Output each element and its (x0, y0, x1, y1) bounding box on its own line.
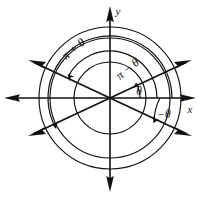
ray-theta-upper-right-arrowhead (174, 60, 192, 69)
label-theta: θ (136, 85, 142, 97)
x-axis-group (4, 94, 196, 102)
ray-theta-lower-left-arrowhead (28, 127, 46, 136)
figure-container: x y π + θ π − θ θ −θ (0, 0, 208, 198)
y-axis-bottom-arrowhead (106, 176, 114, 192)
ray-pi-minus-theta-upper-left-arrowhead (28, 60, 46, 69)
arc-pi-minus-theta (69, 51, 158, 98)
angle-diagram-svg: x y π + θ π − θ θ −θ (0, 0, 208, 198)
x-axis-label: x (187, 103, 193, 115)
y-axis-label: y (115, 5, 121, 17)
x-axis-right-arrowhead (180, 94, 196, 102)
label-negative-theta: −θ (157, 108, 171, 120)
ray-pi-minus-theta-lower-right-arrowhead (174, 127, 192, 136)
arc-pi-minus-theta-group (68, 51, 158, 98)
x-axis-left-arrowhead (4, 94, 20, 102)
y-axis-top-arrowhead (106, 6, 114, 22)
